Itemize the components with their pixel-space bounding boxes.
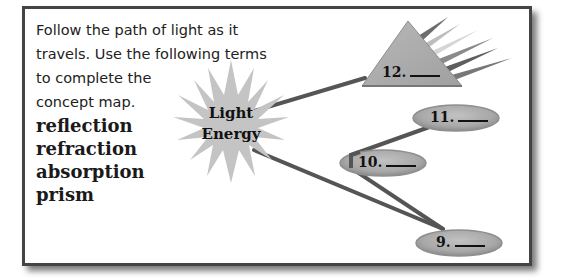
answer-blank <box>458 119 488 122</box>
answer-blank <box>455 244 485 247</box>
light-energy-label: Light Energy <box>196 103 266 145</box>
node-12-label: 12. <box>382 64 440 80</box>
node-9-label: 9. <box>436 234 485 250</box>
connector-9-10-11 <box>351 125 443 229</box>
node-number: 10. <box>358 154 382 170</box>
answer-blank <box>410 74 440 77</box>
node-number: 9. <box>436 234 451 250</box>
node-11-label: 11. <box>430 109 488 125</box>
light-energy-line1: Light <box>209 104 254 122</box>
node-number: 12. <box>382 64 406 80</box>
light-energy-line2: Energy <box>202 125 261 143</box>
node-10-label: 10. <box>358 154 416 170</box>
node-number: 11. <box>430 109 454 125</box>
answer-blank <box>386 164 416 167</box>
